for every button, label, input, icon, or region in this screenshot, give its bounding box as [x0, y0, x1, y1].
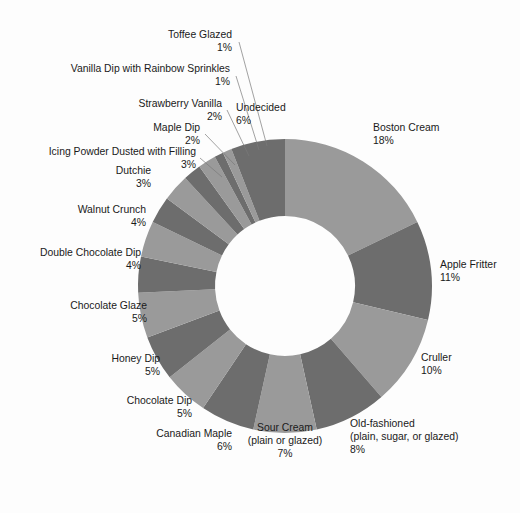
slice-label-line: Dutchie [116, 165, 151, 176]
slice-value: 5% [132, 313, 147, 324]
slice-value: 7% [277, 448, 292, 459]
slice-value: 18% [373, 135, 394, 146]
slice-label-line: Double Chocolate Dip [40, 247, 141, 258]
slice-label: Dutchie3% [116, 165, 151, 189]
slice-label-line: Old-fashioned [350, 418, 415, 429]
slice-label-line: (plain, sugar, or glazed) [350, 431, 459, 442]
slice-value: 1% [215, 76, 230, 87]
slice-label: Cruller10% [421, 352, 452, 376]
slice-value: 5% [177, 408, 192, 419]
slice-label: Chocolate Glaze5% [70, 300, 147, 324]
leader-line [236, 76, 259, 150]
slice-label-line: Honey Dip [111, 353, 160, 364]
donut-chart: Boston Cream18%Apple Fritter11%Cruller10… [0, 0, 520, 513]
slice-value: 5% [145, 366, 160, 377]
slice-label: Double Chocolate Dip4% [40, 247, 141, 271]
slice-label: Boston Cream18% [373, 122, 439, 146]
slice-value: 2% [207, 111, 222, 122]
slice-label: Strawberry Vanilla2% [138, 98, 222, 122]
slice-label: Maple Dip2% [153, 122, 200, 146]
slice-label-line: Walnut Crunch [78, 204, 147, 215]
slice-label: Canadian Maple6% [156, 428, 232, 452]
slice-value: 6% [217, 441, 232, 452]
slice-label: Honey Dip5% [111, 353, 160, 377]
slice-label-line: Chocolate Dip [127, 395, 192, 406]
slice-value: 11% [440, 272, 460, 283]
slice-value: 3% [181, 159, 196, 170]
slice-label: Sour Cream(plain or glazed)7% [248, 422, 323, 459]
donut-chart-svg: Boston Cream18%Apple Fritter11%Cruller10… [0, 0, 520, 513]
slice-label: Apple Fritter11% [440, 259, 497, 283]
slice-value: 3% [136, 178, 151, 189]
slice-value: 1% [217, 42, 232, 53]
slice-label-line: Chocolate Glaze [70, 300, 147, 311]
slice-label-line: Sour Cream [257, 422, 313, 433]
slice-label: Vanilla Dip with Rainbow Sprinkles1% [71, 63, 230, 87]
slice-label-line: Vanilla Dip with Rainbow Sprinkles [71, 63, 230, 74]
slice-value: 2% [185, 135, 200, 146]
slice-label: Toffee Glazed1% [168, 29, 232, 53]
slice-label-line: Canadian Maple [156, 428, 232, 439]
slice-label: Old-fashioned(plain, sugar, or glazed)8% [350, 418, 459, 455]
slice-value: 8% [350, 444, 365, 455]
slice-label: Walnut Crunch4% [78, 204, 147, 228]
slice-label: Chocolate Dip5% [127, 395, 192, 419]
slice-label-line: Toffee Glazed [168, 29, 232, 40]
slice-value: 4% [131, 217, 146, 228]
slice-label-line: Undecided [236, 102, 286, 113]
slice-label-line: Apple Fritter [440, 259, 497, 270]
slice-value: 6% [236, 115, 251, 126]
slice-label-line: Strawberry Vanilla [138, 98, 222, 109]
slice-label-line: Boston Cream [373, 122, 439, 133]
slice-label-line: (plain or glazed) [248, 435, 323, 446]
slice-label-line: Maple Dip [153, 122, 200, 133]
slice-value: 4% [126, 260, 141, 271]
slice-label-line: Icing Powder Dusted with Filling [49, 146, 196, 157]
pie-slices [138, 139, 432, 433]
slice-label-line: Cruller [421, 352, 452, 363]
slice-value: 10% [421, 365, 442, 376]
